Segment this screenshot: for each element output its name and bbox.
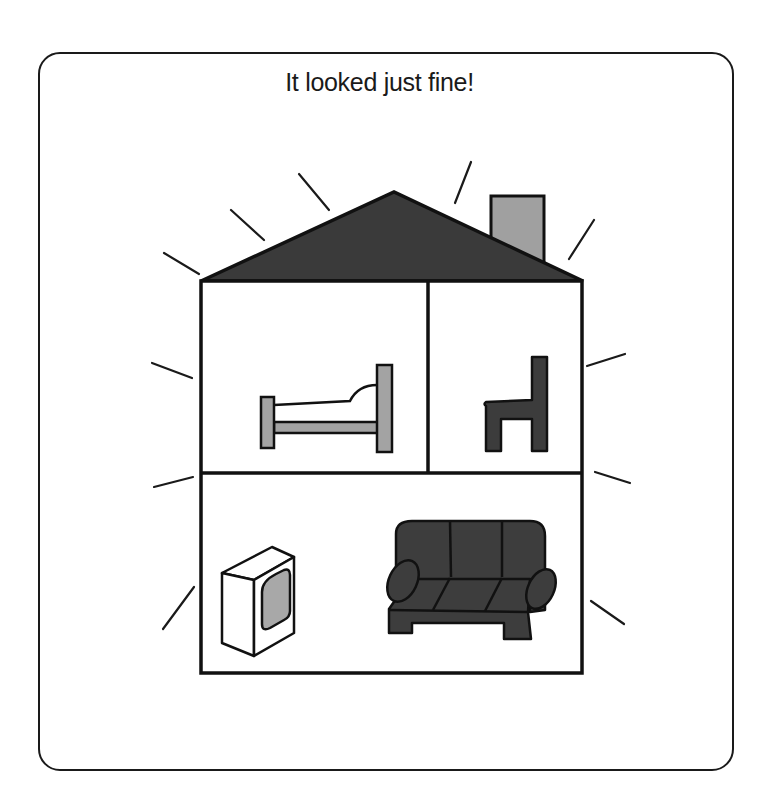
shine-line <box>587 354 625 366</box>
shine-line <box>569 220 594 259</box>
shine-line <box>152 363 192 378</box>
shine-line <box>231 210 264 240</box>
bed-rail <box>274 422 378 433</box>
shine-line <box>455 162 471 203</box>
shine-line <box>163 587 194 629</box>
sofa-seam <box>450 521 451 577</box>
shine-line <box>154 477 193 487</box>
bed-footboard <box>261 397 274 448</box>
shine-line <box>595 472 630 483</box>
shine-line <box>591 601 624 624</box>
house-illustration <box>0 0 759 807</box>
bed-headboard <box>377 365 392 452</box>
tv-side <box>222 573 254 656</box>
shine-line <box>299 174 329 210</box>
shine-line <box>164 253 199 274</box>
